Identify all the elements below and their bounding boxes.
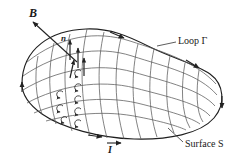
boundary-circulation-arrows	[22, 32, 222, 137]
surface-label: Surface S	[185, 138, 224, 149]
current-label: I	[108, 144, 112, 155]
surface-mesh-horizontal	[23, 36, 217, 130]
loop-label: Loop Γ	[178, 35, 207, 46]
normal-vector-label: n	[61, 33, 66, 43]
magnetic-field-label: B	[29, 6, 37, 21]
physics-diagram: B n I Loop Γ Surface S	[0, 0, 244, 165]
